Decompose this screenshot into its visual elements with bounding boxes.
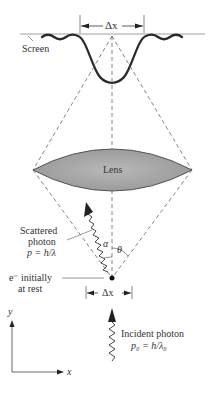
alpha-arc <box>104 257 112 258</box>
scattered-photon-label-2: photon <box>28 236 56 247</box>
x-axis-label: x <box>67 366 71 377</box>
scattered-momentum-label: p = h/λ <box>27 247 56 258</box>
delta-x-bottom-label: Δx <box>102 287 113 298</box>
electron-dot <box>110 276 115 281</box>
lens-label: Lens <box>103 164 122 175</box>
screen-label: Screen <box>22 43 49 54</box>
y-axis-label: y <box>8 306 12 317</box>
delta-x-top-label: Δx <box>105 19 118 31</box>
electron-label-1: e⁻ initially <box>9 272 52 283</box>
screen-pointer <box>28 36 33 41</box>
incident-momentum-label: p₀ = h/λ₀ <box>131 340 167 351</box>
incident-photon-label: Incident photon <box>121 328 184 339</box>
alpha-label: α <box>103 238 108 249</box>
scattered-leader <box>67 230 92 240</box>
electron-label-2: at rest <box>18 283 42 294</box>
axes <box>10 320 65 375</box>
scattered-photon-label-1: Scattered <box>20 225 57 236</box>
theta-label: θ <box>117 244 122 255</box>
incident-photon <box>108 308 116 361</box>
scattered-photon <box>84 202 108 272</box>
